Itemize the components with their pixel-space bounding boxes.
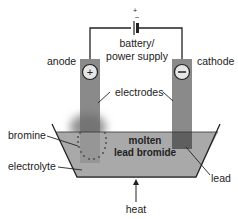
heat-arrow-icon	[133, 179, 139, 202]
anode-label: anode	[47, 55, 76, 67]
electrodes-label: electrodes	[115, 86, 163, 98]
lead-bromide-label: lead bromide	[114, 147, 177, 158]
battery-label-1: battery/	[119, 37, 154, 49]
lead-label: lead	[211, 172, 231, 184]
anode-plus-icon: +	[83, 65, 98, 80]
cathode-label: cathode	[197, 55, 235, 67]
electrolysis-diagram: + – battery/ power supply + anode cathod…	[0, 0, 238, 219]
svg-text:+: +	[87, 66, 93, 78]
battery-icon: + –	[133, 7, 139, 35]
molten-label: molten	[129, 135, 162, 146]
heat-label: heat	[126, 203, 147, 215]
battery-minus: –	[135, 13, 139, 20]
battery-label-2: power supply	[106, 50, 169, 62]
electrolyte-label: electrolyte	[8, 160, 56, 172]
cathode-minus-icon	[175, 65, 190, 80]
bromine-label: bromine	[8, 129, 46, 141]
